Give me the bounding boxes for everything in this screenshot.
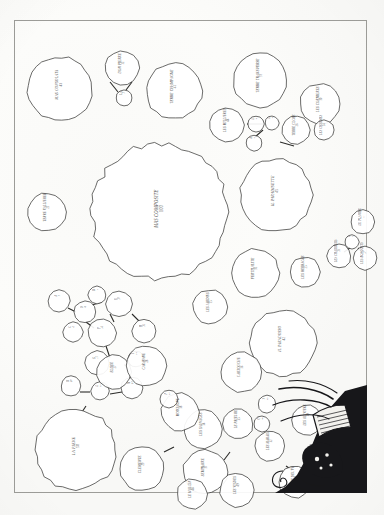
parcel-shape[interactable] [265, 116, 279, 130]
parcel-shape[interactable] [126, 346, 167, 385]
parcel-shape[interactable] [28, 193, 67, 230]
parcel-connector [110, 392, 122, 394]
parcel-connector [164, 447, 174, 452]
parcel-shape[interactable] [132, 319, 156, 343]
parcel-shape[interactable] [88, 319, 116, 347]
parcel-shape[interactable] [90, 142, 229, 280]
parcel-shape[interactable] [220, 473, 254, 507]
parcel-shape[interactable] [193, 290, 228, 324]
map-sheet: MAS CONSOLATA43DON PIERRE12LA7TERRE CHAM… [0, 0, 384, 515]
parcel-shape[interactable] [353, 246, 377, 270]
parcel-shape[interactable] [345, 235, 359, 249]
parcel-shape[interactable] [35, 409, 116, 490]
parcel-shape[interactable] [248, 116, 264, 132]
parcel-shape[interactable] [254, 416, 270, 432]
parcel-shape[interactable] [246, 135, 262, 151]
map-plate: MAS CONSOLATA43DON PIERRE12LA7TERRE CHAM… [14, 20, 367, 493]
parcel-shape[interactable] [106, 291, 133, 316]
decorative-cartouche [271, 375, 367, 493]
parcel-shape[interactable] [63, 322, 84, 342]
parcel-shape[interactable] [48, 290, 70, 312]
parcel-shape[interactable] [210, 108, 245, 142]
parcel-shape[interactable] [234, 53, 287, 108]
parcel-shape[interactable] [327, 244, 351, 268]
parcel-shape[interactable] [116, 90, 132, 106]
parcel-shape[interactable] [240, 159, 313, 231]
parcel-shape[interactable] [74, 301, 96, 323]
parcel-shape[interactable] [314, 120, 334, 140]
parcel-shape[interactable] [351, 210, 375, 234]
parcel-shape[interactable] [105, 51, 139, 85]
parcel-shape[interactable] [221, 352, 262, 393]
parcel-shape[interactable] [282, 116, 310, 144]
parcel-shape[interactable] [301, 84, 340, 124]
parcel-shape[interactable] [120, 447, 164, 490]
parcel-shape[interactable] [147, 63, 203, 118]
parcel-connector [224, 452, 230, 460]
parcel-shape[interactable] [222, 409, 252, 438]
parcel-shape[interactable] [232, 249, 280, 298]
parcel-shape[interactable] [27, 57, 92, 120]
parcel-shape[interactable] [290, 258, 320, 288]
parcel-shape[interactable] [61, 376, 80, 396]
parcel-connector [132, 314, 139, 321]
parcel-shape[interactable] [88, 286, 106, 304]
